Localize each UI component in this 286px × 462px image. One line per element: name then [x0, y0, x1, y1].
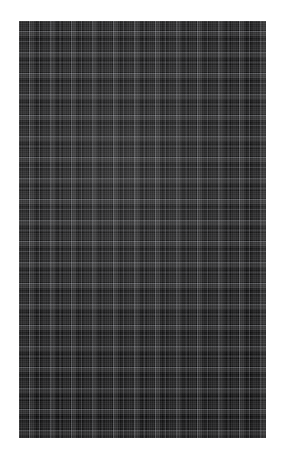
swatch-stage: [0, 0, 286, 462]
fabric-swatch-image: [19, 21, 266, 438]
swatch-lighting-overlay: [19, 21, 266, 438]
